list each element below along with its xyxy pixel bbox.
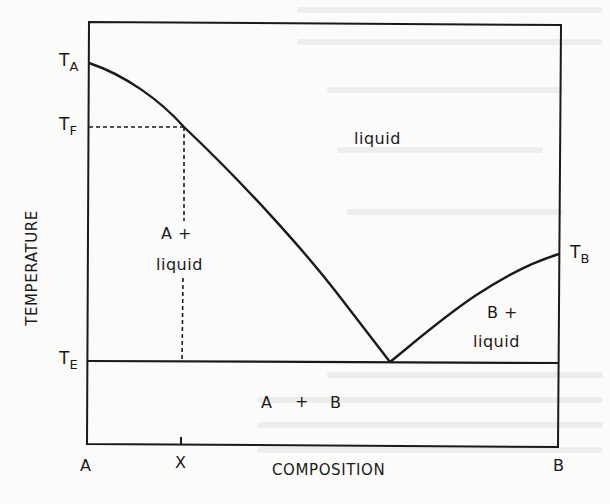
region-a-plus-b-plus: + xyxy=(295,394,309,410)
region-b-plus-liquid-line2: liquid xyxy=(473,334,520,350)
label-tf: TF xyxy=(59,116,77,137)
plot-frame xyxy=(87,22,561,447)
x-axis-title: COMPOSITION xyxy=(272,463,385,478)
liquidus-curve-a xyxy=(89,63,390,362)
label-ta: TA xyxy=(59,52,78,73)
region-b-plus-liquid-line1: B + xyxy=(487,305,518,321)
x-dashed-drop-lower xyxy=(182,278,183,361)
label-tb: TB xyxy=(570,244,589,265)
region-liquid: liquid xyxy=(354,131,401,147)
eutectic-isotherm xyxy=(88,361,559,363)
region-a-plus-b-a: A xyxy=(261,395,272,411)
y-axis-title: TEMPERATURE xyxy=(25,210,40,326)
x-tick-label-b: B xyxy=(553,458,564,474)
paper-bleed-through xyxy=(260,10,600,450)
diagram-lines xyxy=(0,0,610,504)
x-tick-label-a: A xyxy=(80,458,91,474)
x-tick-label-x: X xyxy=(175,455,186,471)
phase-diagram: TA TF TE TB liquid A + liquid B + liquid… xyxy=(0,0,610,504)
region-a-plus-b-b: B xyxy=(330,395,341,411)
label-te: TE xyxy=(59,350,78,371)
region-a-plus-liquid-line2: liquid xyxy=(156,257,203,273)
region-a-plus-liquid-line1: A + xyxy=(161,226,192,242)
